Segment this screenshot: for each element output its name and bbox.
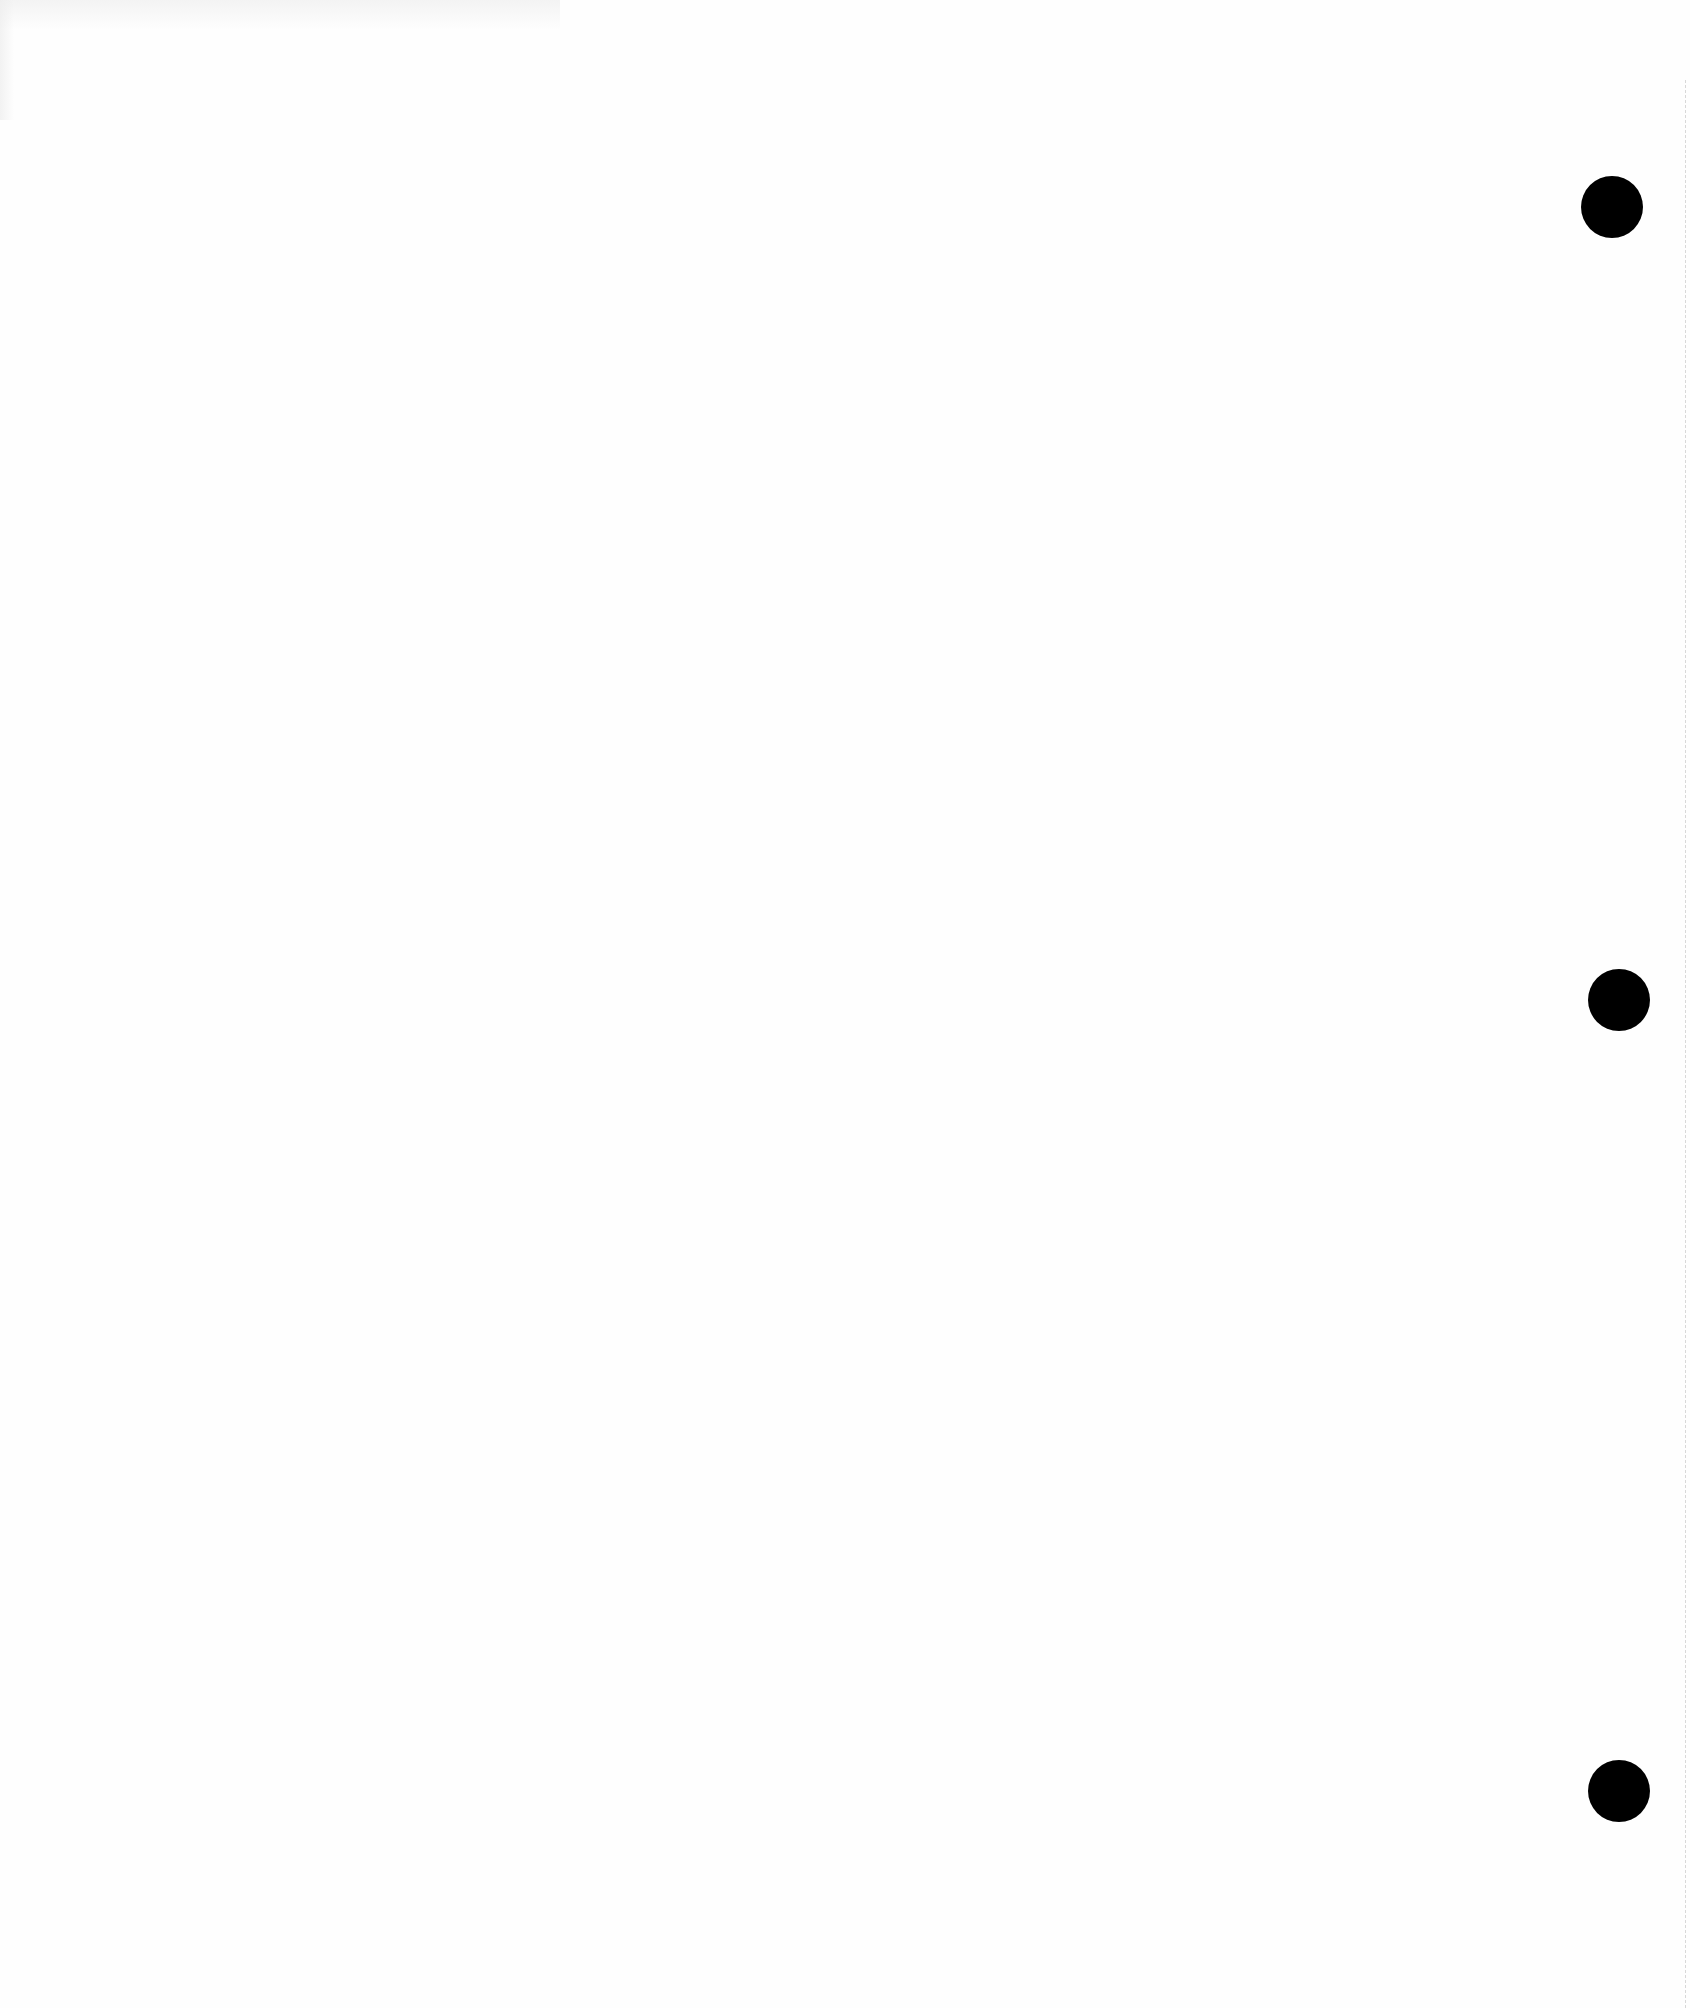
page-edge-right xyxy=(1685,80,1690,2008)
punch-hole-middle xyxy=(1588,969,1650,1031)
scan-shadow-top xyxy=(0,0,560,30)
scan-shadow-left xyxy=(0,0,14,120)
punch-hole-bottom xyxy=(1588,1760,1650,1822)
blank-document-page xyxy=(0,0,1690,2008)
punch-hole-top xyxy=(1581,176,1643,238)
